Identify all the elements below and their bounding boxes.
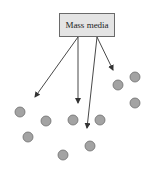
influence-arrow	[97, 37, 113, 70]
audience-node	[58, 150, 68, 160]
audience-nodes-group	[15, 72, 140, 160]
audience-node	[95, 115, 105, 125]
influence-arrow	[87, 37, 97, 128]
audience-node	[130, 98, 140, 108]
mass-media-label: Mass media	[65, 20, 108, 30]
audience-node	[113, 80, 123, 90]
arrows-group	[35, 37, 113, 128]
audience-node	[130, 72, 140, 82]
influence-arrow	[35, 37, 78, 97]
audience-node	[15, 107, 25, 117]
audience-node	[41, 116, 51, 126]
audience-node	[23, 132, 33, 142]
audience-node	[68, 115, 78, 125]
audience-node	[85, 141, 95, 151]
mass-media-box: Mass media	[59, 13, 115, 37]
